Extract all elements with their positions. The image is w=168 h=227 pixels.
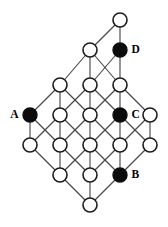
- lattice-node-open[interactable]: [53, 138, 67, 152]
- node-label-a: A: [10, 108, 19, 120]
- lattice-node-open[interactable]: [83, 43, 97, 57]
- lattice-node-open[interactable]: [113, 78, 127, 92]
- lattice-node-open[interactable]: [143, 138, 157, 152]
- lattice-diagram: DACB: [0, 0, 168, 227]
- lattice-node-open[interactable]: [53, 108, 67, 122]
- node-label-d: D: [132, 43, 140, 55]
- lattice-node-open[interactable]: [83, 108, 97, 122]
- lattice-node-filled[interactable]: [23, 108, 37, 122]
- lattice-node-filled[interactable]: [113, 43, 127, 57]
- lattice-figure: DACB: [0, 0, 168, 227]
- lattice-node-filled[interactable]: [113, 108, 127, 122]
- lattice-node-filled[interactable]: [113, 168, 127, 182]
- lattice-node-open[interactable]: [113, 13, 127, 27]
- lattice-node-open[interactable]: [143, 108, 157, 122]
- lattice-node-open[interactable]: [83, 198, 97, 212]
- node-label-b: B: [132, 168, 140, 180]
- lattice-node-open[interactable]: [83, 78, 97, 92]
- lattice-node-open[interactable]: [83, 138, 97, 152]
- node-label-c: C: [132, 108, 140, 120]
- lattice-node-open[interactable]: [53, 78, 67, 92]
- lattice-node-open[interactable]: [113, 138, 127, 152]
- lattice-node-open[interactable]: [23, 138, 37, 152]
- lattice-node-open[interactable]: [83, 168, 97, 182]
- lattice-node-open[interactable]: [53, 168, 67, 182]
